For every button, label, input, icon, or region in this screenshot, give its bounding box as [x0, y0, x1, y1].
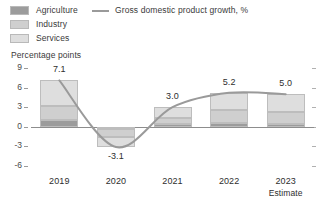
legend-swatch-icon — [10, 6, 29, 15]
legend-item-label: Services — [36, 34, 69, 43]
legend-item-agriculture[interactable]: Agriculture — [10, 4, 78, 17]
legend-item-label: Industry — [36, 20, 67, 29]
x-axis-tick-label: 2019 — [31, 176, 87, 186]
x-axis-tick-sublabel: Estimate — [258, 188, 314, 198]
legend-series-column: Agriculture Industry Services — [10, 4, 78, 46]
legend-item-label: Gross domestic product growth, % — [115, 6, 248, 15]
legend-item-gdp-growth[interactable]: Gross domestic product growth, % — [92, 4, 248, 17]
legend-swatch-icon — [10, 20, 29, 29]
legend-line-icon — [92, 10, 109, 12]
x-axis-tick-label: 2022 — [201, 176, 257, 186]
legend-swatch-icon — [10, 34, 29, 43]
plot-area: 9630-3-6 7.1-3.13.05.25.0 — [0, 62, 321, 172]
x-axis-tick-label: 2021 — [145, 176, 201, 186]
gdp-growth-line-path — [59, 80, 285, 147]
legend-item-services[interactable]: Services — [10, 32, 78, 45]
x-axis-labels: 20192020202120222023Estimate — [0, 176, 321, 202]
x-axis-tick-label: 2023 — [258, 176, 314, 186]
chart-legend: Agriculture Industry Services Gross dome… — [0, 0, 321, 46]
x-axis-tick-label: 2020 — [88, 176, 144, 186]
gdp-growth-chart: Agriculture Industry Services Gross dome… — [0, 0, 321, 202]
legend-item-label: Agriculture — [36, 6, 78, 15]
y-axis-title: Percentage points — [11, 50, 81, 60]
legend-item-industry[interactable]: Industry — [10, 18, 78, 31]
gdp-growth-line — [0, 62, 321, 172]
